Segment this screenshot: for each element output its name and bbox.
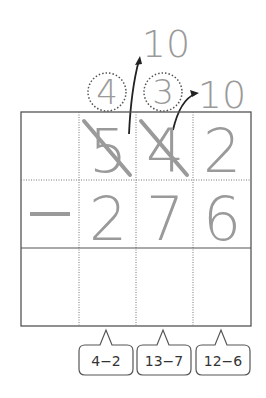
callout-hundreds-text: 4−2 <box>91 353 121 369</box>
borrow-ten-ones: 10 <box>198 73 246 117</box>
subtrahend-tens: 7 <box>146 184 184 254</box>
subtrahend-ones: 6 <box>203 184 241 254</box>
callouts: 4−2 13−7 12−6 <box>79 330 250 375</box>
callout-tens-text: 13−7 <box>145 353 183 369</box>
callout-ones-text: 12−6 <box>204 353 243 369</box>
borrow-ten-tens: 10 <box>142 22 190 66</box>
borrow-circled-hundreds: 4 <box>96 72 118 112</box>
subtraction-diagram: 4 3 10 10 5 4 2 2 7 6 4−2 13 <box>0 0 266 398</box>
subtrahend-hundreds: 2 <box>89 184 127 254</box>
minuend-ones: 2 <box>203 116 241 186</box>
borrow-arrow-1 <box>129 60 139 134</box>
borrow-circled-tens: 3 <box>152 72 174 112</box>
minuend-row: 5 4 2 <box>84 116 241 186</box>
